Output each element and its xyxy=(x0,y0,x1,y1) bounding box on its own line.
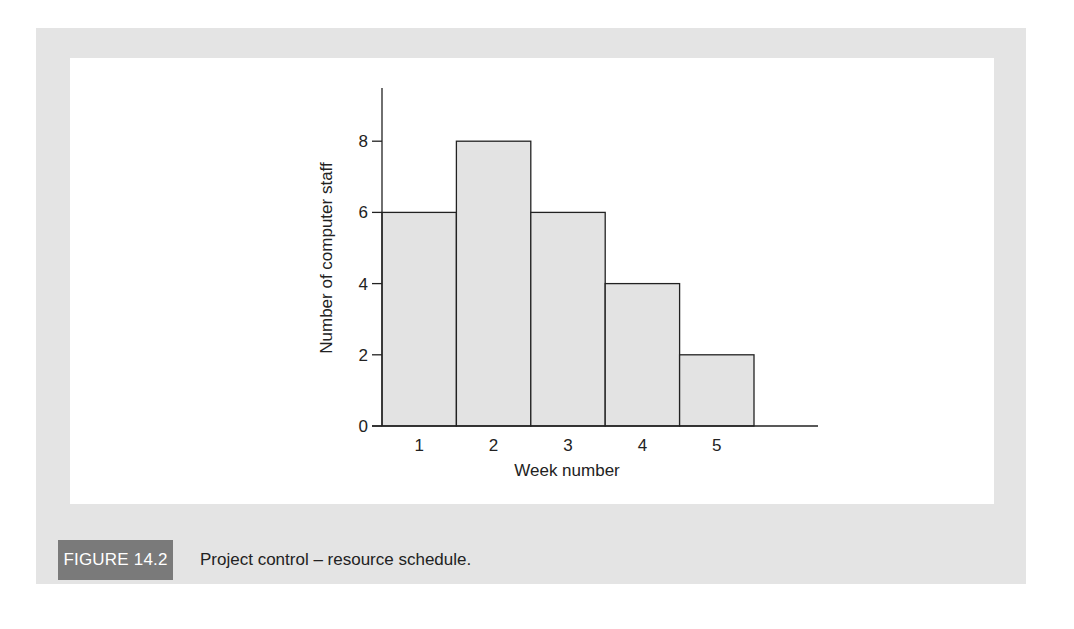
x-tick-label: 2 xyxy=(489,436,498,455)
bar-week-5 xyxy=(680,355,754,426)
x-tick-label: 4 xyxy=(638,436,647,455)
bar-week-3 xyxy=(531,212,605,426)
bar-week-4 xyxy=(605,284,679,426)
histogram-chart: 1234502468Week numberNumber of computer … xyxy=(0,0,1074,629)
y-axis-label: Number of computer staff xyxy=(317,162,336,354)
figure-label: FIGURE 14.2 xyxy=(58,540,173,580)
y-tick-label: 0 xyxy=(359,417,368,436)
bars-group xyxy=(382,141,754,426)
y-tick-label: 4 xyxy=(359,275,368,294)
y-tick-label: 2 xyxy=(359,346,368,365)
y-tick-label: 8 xyxy=(359,132,368,151)
figure-caption: Project control – resource schedule. xyxy=(200,540,471,580)
x-tick-label: 1 xyxy=(414,436,423,455)
bar-week-2 xyxy=(456,141,530,426)
bar-week-1 xyxy=(382,212,456,426)
x-tick-label: 3 xyxy=(563,436,572,455)
x-tick-label: 5 xyxy=(712,436,721,455)
x-axis-label: Week number xyxy=(514,461,620,480)
y-tick-label: 6 xyxy=(359,203,368,222)
